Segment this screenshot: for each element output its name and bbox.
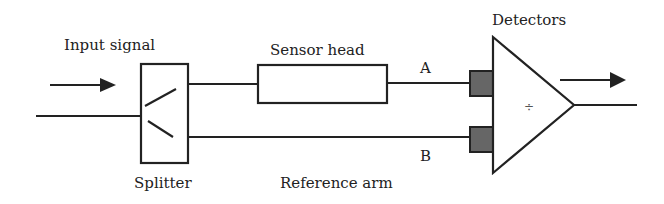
splitter-label: Splitter <box>134 174 192 192</box>
input-arrow-icon <box>50 78 116 92</box>
detector-a <box>470 71 493 96</box>
reference-arm-label: Reference arm <box>280 174 393 192</box>
path-a-label: A <box>419 59 431 77</box>
sensor-diagram: Input signal Splitter Sensor head A B Re… <box>0 0 664 204</box>
splitter-block <box>141 64 188 163</box>
divide-icon: ÷ <box>524 100 534 114</box>
sensor-head-label: Sensor head <box>270 41 365 59</box>
path-b-label: B <box>420 147 431 165</box>
detector-b <box>470 127 493 152</box>
output-arrow-icon <box>560 72 626 88</box>
detectors-label: Detectors <box>492 11 566 29</box>
input-signal-label: Input signal <box>64 36 155 54</box>
sensor-head-block <box>258 65 387 103</box>
